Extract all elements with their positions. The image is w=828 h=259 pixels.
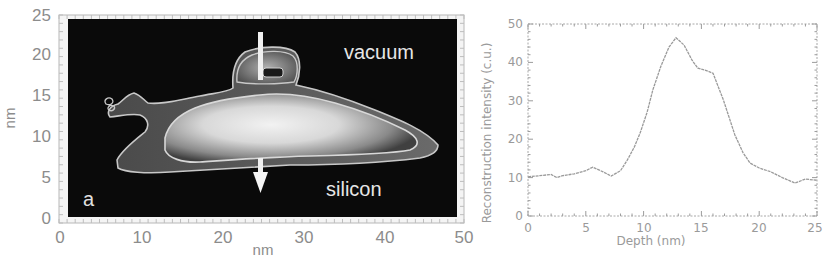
left-x-axis-label: nm <box>253 241 274 258</box>
y-tick: 20 <box>32 45 51 64</box>
x-tick: 15 <box>693 221 708 235</box>
y-tick: 0 <box>42 209 51 228</box>
x-tick: 10 <box>133 228 152 247</box>
right-frame-ticks <box>528 24 817 216</box>
y-tick: 30 <box>508 94 523 108</box>
y-tick: 40 <box>508 55 523 69</box>
x-tick: 20 <box>751 221 766 235</box>
x-tick: 5 <box>582 221 590 235</box>
x-tick: 0 <box>524 221 532 235</box>
y-tick: 0 <box>515 209 523 223</box>
y-tick: 10 <box>508 171 523 185</box>
y-tick: 20 <box>508 132 523 146</box>
vacuum-label: vacuum <box>344 41 414 63</box>
x-tick: 0 <box>55 228 64 247</box>
left-y-tick-labels: 0 5 10 15 20 25 <box>32 6 51 228</box>
right-panel: 0 10 20 30 40 50 0 5 10 15 20 25 Depth (… <box>480 17 823 248</box>
y-tick: 50 <box>508 17 523 31</box>
right-x-axis-label: Depth (nm) <box>616 234 685 248</box>
intensity-profile-line <box>528 38 817 183</box>
panel-letter: a <box>83 188 95 210</box>
y-tick: 10 <box>32 127 51 146</box>
right-plot-frame <box>528 24 817 216</box>
x-tick: 40 <box>376 228 395 247</box>
y-tick: 15 <box>32 86 51 105</box>
left-panel: vacuum silicon a 0 5 10 15 20 25 0 10 20… <box>1 6 473 258</box>
right-x-tick-labels: 0 5 10 15 20 25 <box>524 221 822 235</box>
right-y-tick-labels: 0 10 20 30 40 50 <box>508 17 523 223</box>
figure: vacuum silicon a 0 5 10 15 20 25 0 10 20… <box>0 0 828 259</box>
cap-dark-spot <box>263 68 283 77</box>
x-tick: 20 <box>214 228 233 247</box>
x-tick: 25 <box>807 221 822 235</box>
y-tick: 25 <box>32 6 51 25</box>
x-tick: 30 <box>295 228 314 247</box>
x-tick: 10 <box>636 221 651 235</box>
silicon-label: silicon <box>326 178 382 200</box>
y-tick: 5 <box>42 168 51 187</box>
right-y-axis-label: Reconstruction intensity (c.u.) <box>480 43 494 224</box>
left-y-axis-label: nm <box>1 108 18 129</box>
x-tick: 50 <box>455 228 474 247</box>
